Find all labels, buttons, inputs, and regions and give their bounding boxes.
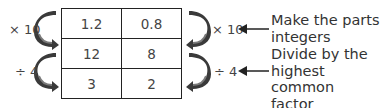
curved-arrow-right-icon bbox=[185, 12, 211, 50]
table-row: 3 2 bbox=[62, 69, 182, 99]
note-make-integers: Make the parts integers bbox=[271, 12, 380, 45]
table-cell: 2 bbox=[122, 69, 182, 99]
table-row: 12 8 bbox=[62, 39, 182, 69]
note-line: integers bbox=[271, 29, 380, 46]
ratio-table: 1.2 0.8 12 8 3 2 bbox=[61, 8, 182, 99]
note-divide-hcf: Divide by the highest common factor bbox=[271, 46, 386, 108]
table-row: 1.2 0.8 bbox=[62, 9, 182, 39]
divide-label-left: ÷ 4 bbox=[15, 64, 38, 79]
table-cell: 0.8 bbox=[122, 9, 182, 39]
table-cell: 12 bbox=[62, 39, 122, 69]
multiply-label-left: × 10 bbox=[9, 22, 41, 37]
curved-arrow-right-icon bbox=[185, 54, 211, 92]
divide-label-right: ÷ 4 bbox=[214, 64, 237, 79]
note-line: Divide by the bbox=[271, 46, 386, 63]
table-cell: 3 bbox=[62, 69, 122, 99]
table-cell: 1.2 bbox=[62, 9, 122, 39]
note-line: highest common bbox=[271, 63, 386, 96]
note-line: factor bbox=[271, 96, 386, 109]
note-line: Make the parts bbox=[271, 12, 380, 29]
table-cell: 8 bbox=[122, 39, 182, 69]
pointer-arrow-icon bbox=[238, 24, 270, 34]
pointer-arrow-icon bbox=[238, 66, 270, 76]
